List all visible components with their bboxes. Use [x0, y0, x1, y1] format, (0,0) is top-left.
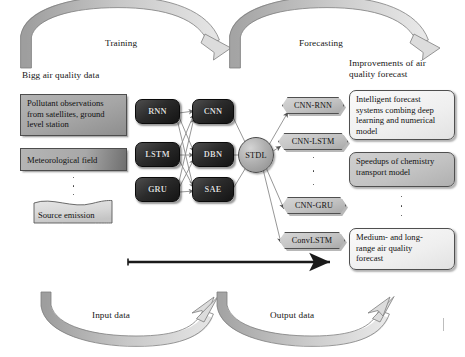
ellipsis-dot [313, 170, 314, 171]
forecasting-arc-label: Forecasting [299, 38, 343, 48]
stdl-hub-node[interactable]: STDL [238, 137, 274, 173]
outcome-ellipsis [400, 196, 403, 216]
hybrid-ellipsis [312, 157, 315, 185]
hub-output-connections [262, 112, 288, 243]
left-section-heading: Bigg air quality data [22, 70, 99, 81]
ellipsis-dot [313, 184, 314, 185]
source-emission-label: Source emission [38, 210, 95, 220]
input-box-source-emission[interactable]: Source emission [32, 198, 116, 225]
outcome-box-chemistry-transport-speedups[interactable]: Speedups of chemistry transport model [349, 152, 455, 187]
hybrid-node-cnn-gru[interactable]: CNN-GRU [282, 197, 346, 214]
input-box-pollutant-observations[interactable]: Pollutant observations from satellites, … [20, 94, 127, 136]
hybrid-node-cnn-rnn[interactable]: CNN-RNN [282, 97, 344, 114]
ellipsis-dot [401, 196, 402, 197]
model-block-rnn[interactable]: RNN [135, 99, 180, 124]
ellipsis-dot [401, 205, 402, 206]
training-arc-label: Training [105, 38, 137, 48]
input-box-meteorological-field[interactable]: Meteorological field [20, 148, 127, 171]
corner-tick-mark [443, 318, 444, 331]
model-block-sae[interactable]: SAE [192, 177, 234, 202]
ellipsis-dot [73, 177, 74, 178]
model-block-lstm[interactable]: LSTM [135, 142, 180, 167]
ellipsis-dot [73, 194, 74, 195]
right-section-heading: Improvements of air quality forecast [349, 58, 426, 81]
model-block-gru[interactable]: GRU [135, 177, 180, 202]
training-arc-arrow [21, 0, 231, 68]
hybrid-node-cnn-lstm[interactable]: CNN-LSTM [278, 133, 348, 150]
hybrid-node-convlstm[interactable]: ConvLSTM [279, 232, 345, 249]
main-flow-arrow [128, 259, 330, 266]
ellipsis-dot [401, 215, 402, 216]
input-data-arc-label: Input data [92, 310, 130, 320]
output-data-arc-label: Output data [270, 310, 314, 320]
outcome-box-intelligent-forecast-systems[interactable]: Intelligent forecast systems combing dee… [349, 90, 455, 140]
outcome-box-medium-long-range-forecast[interactable]: Medium- and long- range air quality fore… [349, 228, 455, 270]
ellipsis-dot [73, 185, 74, 186]
ellipsis-dot [313, 157, 314, 158]
diagram-canvas: Training Forecasting Input data Output d… [0, 0, 465, 357]
model-block-cnn[interactable]: CNN [192, 99, 234, 124]
input-ellipsis [72, 177, 75, 195]
model-block-dbn[interactable]: DBN [192, 142, 234, 167]
